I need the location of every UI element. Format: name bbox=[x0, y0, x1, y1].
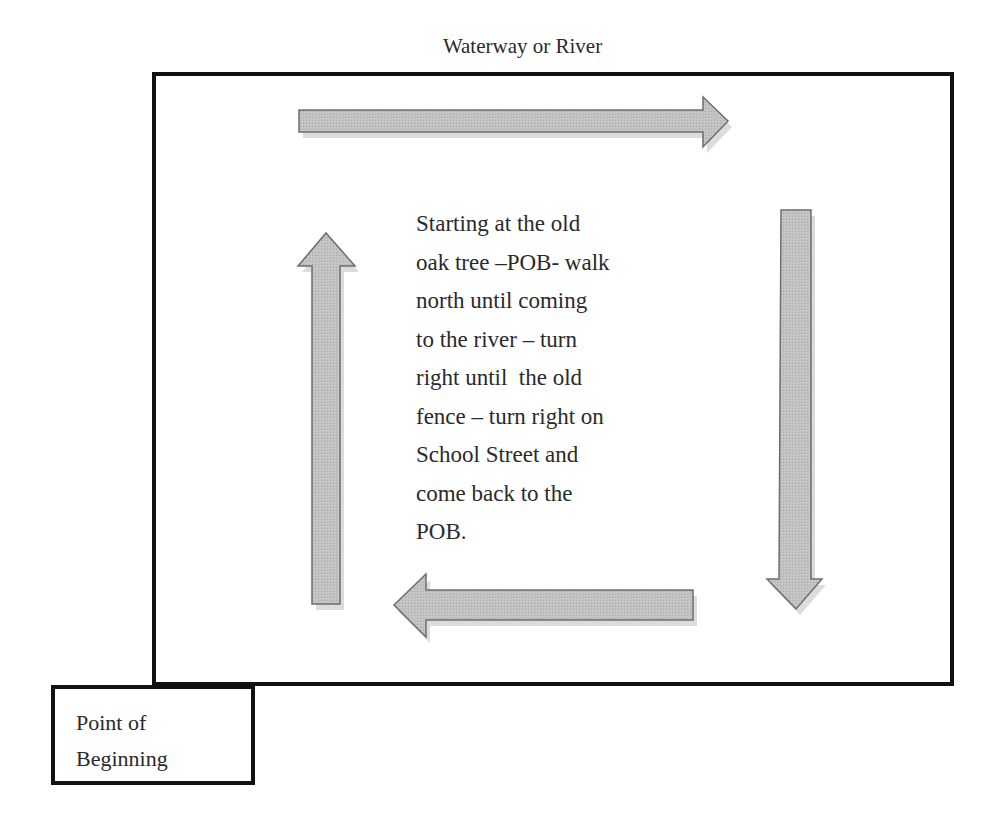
description-line: come back to the bbox=[416, 475, 706, 514]
arrow-up-icon bbox=[298, 233, 359, 610]
point-of-beginning-box: Point of Beginning bbox=[51, 685, 255, 785]
description-line: Starting at the old bbox=[416, 205, 706, 244]
point-of-beginning-label: Point of Beginning bbox=[76, 705, 168, 777]
pob-line: Beginning bbox=[76, 741, 168, 777]
walk-description: Starting at the old oak tree –POB- walk … bbox=[416, 205, 706, 552]
description-line: north until coming bbox=[416, 282, 706, 321]
description-line: oak tree –POB- walk bbox=[416, 244, 706, 283]
pob-line: Point of bbox=[76, 705, 168, 741]
description-line: School Street and bbox=[416, 436, 706, 475]
description-line: fence – turn right on bbox=[416, 398, 706, 437]
arrow-down-icon bbox=[767, 210, 826, 615]
arrow-left-icon bbox=[394, 574, 697, 643]
description-line: POB. bbox=[416, 513, 706, 552]
description-line: right until the old bbox=[416, 359, 706, 398]
description-line: to the river – turn bbox=[416, 321, 706, 360]
arrow-right-icon bbox=[299, 97, 732, 153]
